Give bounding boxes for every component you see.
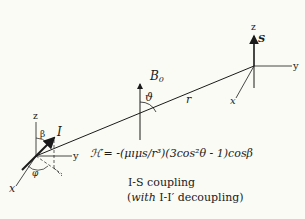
b0-label: B0 [149, 69, 164, 84]
s-y-axis-label: y [292, 60, 299, 71]
caption-subtitle: (with I-I′ decoupling) [127, 191, 244, 204]
hamiltonian-formula: ℋ′= -(μıμs/r³)(3cos²θ - 1)cosβ [90, 147, 253, 160]
internuclear-vector-r [36, 66, 254, 156]
r-label: r [186, 93, 192, 106]
phi-label: φ [32, 168, 39, 178]
i-y-axis-label: y [72, 150, 79, 161]
i-label: I [56, 125, 62, 139]
caption-title: I-S coupling [128, 176, 195, 189]
s-x-axis-label: x [230, 95, 236, 106]
s-label: S [258, 33, 265, 44]
theta-label: ϑ [145, 91, 153, 104]
coupling-diagram: B0 ϑ r z S y x z β I y φ x ℋ′= -(μıμs/r³… [0, 0, 305, 219]
beta-label: β [40, 129, 45, 139]
s-z-axis-label: z [251, 22, 256, 32]
i-x-axis-label: x [9, 182, 16, 195]
i-z-axis-label: z [33, 111, 38, 121]
spin-s-frame [236, 36, 292, 98]
